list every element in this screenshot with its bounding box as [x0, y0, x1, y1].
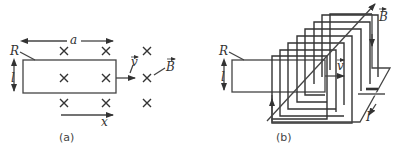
battery-icon — [358, 89, 385, 94]
velocity-label: v — [131, 55, 138, 69]
panel-b-caption: (b) — [276, 131, 292, 144]
panel-a-caption: (a) — [59, 131, 74, 144]
height-label: l — [11, 71, 15, 85]
diagram-canvas: a R l v — [0, 0, 402, 153]
circuit-wire — [272, 14, 390, 122]
panel-b: R l — [218, 4, 390, 144]
field-label-b: B — [378, 10, 388, 24]
position-label: x — [101, 115, 108, 129]
field-leader-line — [154, 68, 165, 75]
panel-a: a R l v — [9, 33, 175, 144]
current-label: I — [365, 110, 371, 124]
resistor-label: R — [9, 44, 19, 58]
conducting-loop — [23, 60, 116, 93]
field-label: B — [165, 60, 175, 74]
resistor-label-b: R — [218, 44, 228, 58]
resistor-leader-line-b — [229, 52, 244, 60]
width-label: a — [70, 33, 77, 47]
velocity-label-b: v — [337, 59, 344, 73]
conducting-loop-b — [232, 60, 325, 92]
resistor-leader-line — [20, 52, 35, 60]
width-dimension-arrow: a — [27, 33, 113, 47]
height-label-b: l — [221, 70, 225, 84]
